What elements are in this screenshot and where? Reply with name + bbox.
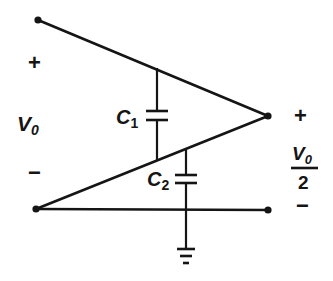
capacitor-c1 bbox=[146, 68, 168, 161]
wire-bottom-common bbox=[36, 209, 268, 210]
terminal-output-top bbox=[264, 112, 271, 119]
input-minus-sign: − bbox=[28, 160, 41, 185]
terminal-output-bottom bbox=[264, 206, 271, 213]
c2-label: C2 bbox=[147, 168, 169, 193]
c1-label: C1 bbox=[116, 106, 138, 131]
wire-bottom-input-to-output bbox=[36, 116, 268, 209]
output-plus-sign: + bbox=[294, 103, 307, 128]
capacitor-c2 bbox=[175, 150, 197, 249]
output-voltage-fraction: V0 2 bbox=[291, 143, 318, 193]
circuit-diagram: + V0 − C1 C2 + V0 2 − bbox=[0, 0, 333, 281]
wire-top-input-to-output bbox=[38, 20, 268, 116]
input-plus-sign: + bbox=[28, 50, 41, 75]
terminal-input-bottom bbox=[32, 205, 39, 212]
output-denominator: 2 bbox=[298, 172, 309, 193]
ground-icon bbox=[177, 249, 195, 263]
terminal-input-top bbox=[34, 16, 41, 23]
output-numerator: V0 bbox=[292, 143, 313, 167]
output-minus-sign: − bbox=[296, 193, 309, 218]
input-voltage-label: V0 bbox=[17, 112, 39, 138]
